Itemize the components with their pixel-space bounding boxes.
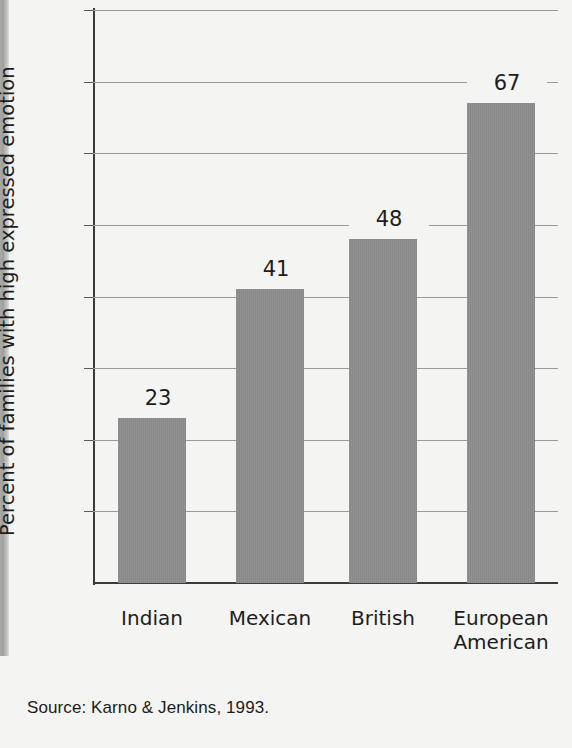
ytick-mark-60	[84, 153, 93, 154]
xtick-label-indian: Indian	[98, 606, 206, 630]
bar-chart-figure: Percent of families with high expressed …	[0, 0, 572, 748]
ytick-mark-50	[84, 225, 93, 226]
bar-value-european-american: 67	[467, 73, 547, 94]
xtick-label-european-american-line1: European	[447, 606, 555, 630]
bar-value-british: 48	[349, 209, 429, 230]
xtick-label-indian-line1: Indian	[98, 606, 206, 630]
source-note: Source: Karno & Jenkins, 1993.	[27, 698, 269, 718]
bar-value-mexican: 41	[236, 259, 316, 280]
bar-value-indian: 23	[118, 388, 198, 409]
bar-indian[interactable]	[118, 418, 186, 583]
ytick-mark-80	[84, 10, 93, 11]
xtick-label-european-american-line2: American	[447, 630, 555, 654]
ytick-mark-70	[84, 82, 93, 83]
gridline-80	[93, 10, 558, 11]
ytick-mark-20	[84, 440, 93, 441]
ytick-mark-40	[84, 297, 93, 298]
plot-area: 80 70 60 50 40 30 20 10 0 23 41 48 67	[93, 10, 558, 583]
xtick-label-european-american: European American	[447, 606, 555, 655]
y-axis-title: Percent of families with high expressed …	[0, 96, 18, 536]
ytick-mark-30	[84, 368, 93, 369]
xtick-label-british: British	[329, 606, 437, 630]
xtick-label-british-line1: British	[329, 606, 437, 630]
bar-mexican[interactable]	[236, 289, 304, 583]
xtick-label-mexican-line1: Mexican	[216, 606, 324, 630]
xtick-label-mexican: Mexican	[216, 606, 324, 630]
bar-british[interactable]	[349, 239, 417, 583]
ytick-mark-10	[84, 511, 93, 512]
bar-european-american[interactable]	[467, 103, 535, 583]
